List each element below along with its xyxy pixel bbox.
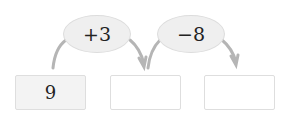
operation-label-2: −8 (177, 23, 205, 45)
answer-box-3[interactable] (204, 75, 275, 110)
operation-ellipse-2: −8 (157, 15, 225, 53)
arrow-1-start (53, 40, 66, 68)
arrow-2-start (148, 40, 160, 68)
value-box-1: 9 (15, 75, 86, 110)
answer-box-2[interactable] (110, 75, 181, 110)
operation-ellipse-1: +3 (63, 15, 131, 53)
operation-label-1: +3 (83, 23, 111, 45)
start-value: 9 (45, 82, 56, 103)
